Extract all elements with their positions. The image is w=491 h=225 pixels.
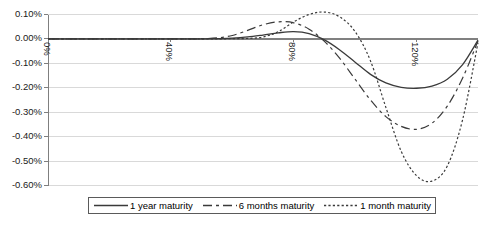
legend-label: 1 year maturity bbox=[130, 201, 193, 211]
chart-container: 0.10%0.00%-0.10%-0.20%-0.30%-0.40%-0.50%… bbox=[0, 0, 491, 225]
y-axis-tick-label: 0.00% bbox=[15, 32, 42, 43]
x-axis-tick-label: 40% bbox=[164, 42, 175, 61]
legend-item: 6 months maturity bbox=[202, 201, 315, 211]
legend-item: 1 year maturity bbox=[93, 201, 193, 211]
legend-swatch-dashed bbox=[202, 201, 238, 210]
chart-legend: 1 year maturity6 months maturity1 month … bbox=[88, 197, 436, 214]
legend-swatch-dotted bbox=[323, 201, 359, 210]
series-line-2 bbox=[48, 12, 478, 182]
x-axis-tick-label: 0% bbox=[42, 42, 53, 56]
gridlines bbox=[48, 15, 478, 186]
y-axis-tick-label: 0.10% bbox=[15, 8, 42, 19]
legend-label: 6 months maturity bbox=[239, 201, 315, 211]
x-axis-tick-label: 120% bbox=[410, 42, 421, 66]
y-axis-tick-label: -0.50% bbox=[12, 155, 42, 166]
y-axis-tick-label: -0.30% bbox=[12, 106, 42, 117]
y-axis-tick-label: -0.60% bbox=[12, 179, 42, 190]
series-line-1 bbox=[48, 22, 478, 130]
y-axis-tick-label: -0.40% bbox=[12, 130, 42, 141]
chart-plot-area bbox=[0, 0, 491, 225]
legend-swatch-solid bbox=[93, 201, 129, 210]
data-series-group bbox=[48, 12, 478, 182]
x-axis-tick-label: 80% bbox=[287, 42, 298, 61]
legend-item: 1 month maturity bbox=[323, 201, 431, 211]
y-axis-tick-label: -0.20% bbox=[12, 81, 42, 92]
y-axis-tick-label: -0.10% bbox=[12, 57, 42, 68]
legend-label: 1 month maturity bbox=[360, 201, 431, 211]
